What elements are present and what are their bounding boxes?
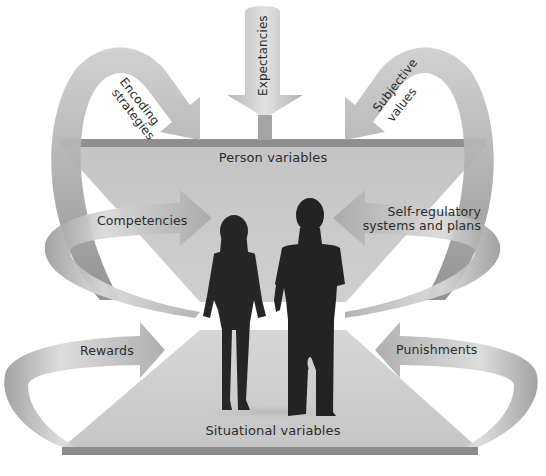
situational-variables-label: Situational variables (180, 424, 366, 438)
person-panel-ledge (60, 139, 486, 147)
person-variables-label: Person variables (200, 151, 346, 165)
situation-panel-ledge (62, 447, 478, 455)
punishments-label: Punishments (396, 343, 477, 357)
expectancies-label: Expectancies (256, 15, 270, 96)
diagram-stage: Person variables Situational variables E… (0, 0, 546, 476)
self-regulatory-label-line1: Self-regulatory (355, 205, 481, 219)
rewards-label: Rewards (80, 344, 134, 358)
competencies-label: Competencies (97, 214, 187, 228)
diagram-graphic (0, 0, 546, 476)
self-regulatory-label-line2: systems and plans (355, 219, 481, 233)
